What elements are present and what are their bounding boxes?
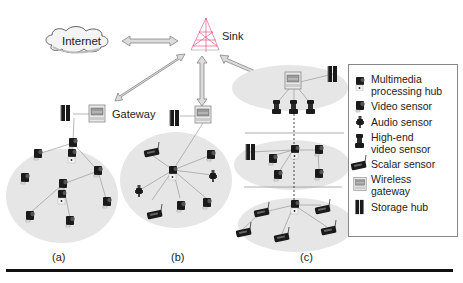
arrow-sink-gateway-b bbox=[197, 56, 207, 106]
audio-sensor-icon bbox=[353, 114, 367, 130]
gateway-label: Gateway bbox=[112, 108, 155, 120]
sink-tower-icon bbox=[191, 18, 219, 52]
wireless-gateway-icon bbox=[285, 72, 301, 89]
arrow-internet-sink bbox=[122, 36, 178, 46]
arrow-sink-gateway-a bbox=[115, 54, 185, 101]
internet-label: Internet bbox=[62, 35, 101, 47]
multimedia-processing-hub-icon bbox=[353, 75, 367, 91]
storage-hub-icon bbox=[353, 199, 367, 215]
video-sensor-icon bbox=[353, 98, 367, 114]
cluster-b bbox=[120, 106, 232, 228]
wireless-gateway-icon bbox=[353, 176, 367, 192]
panel-b-label: (b) bbox=[171, 251, 184, 263]
cluster-c bbox=[232, 65, 354, 252]
storage-hub-icon bbox=[61, 105, 71, 121]
legend: Multimediaprocessing hub Video sensor Au… bbox=[348, 64, 458, 237]
cluster-a bbox=[6, 105, 118, 243]
scalar-sensor-icon bbox=[350, 155, 368, 171]
storage-hub-icon bbox=[170, 110, 180, 126]
bottom-rule bbox=[6, 269, 453, 272]
wireless-gateway-icon bbox=[89, 105, 105, 122]
panel-a-label: (a) bbox=[52, 251, 65, 263]
sink-label: Sink bbox=[222, 30, 243, 42]
video-sensor-icon bbox=[69, 138, 78, 149]
wireless-gateway-icon bbox=[195, 106, 211, 123]
panel-c-label: (c) bbox=[300, 251, 313, 263]
high-end-video-sensor-icon bbox=[353, 133, 367, 149]
